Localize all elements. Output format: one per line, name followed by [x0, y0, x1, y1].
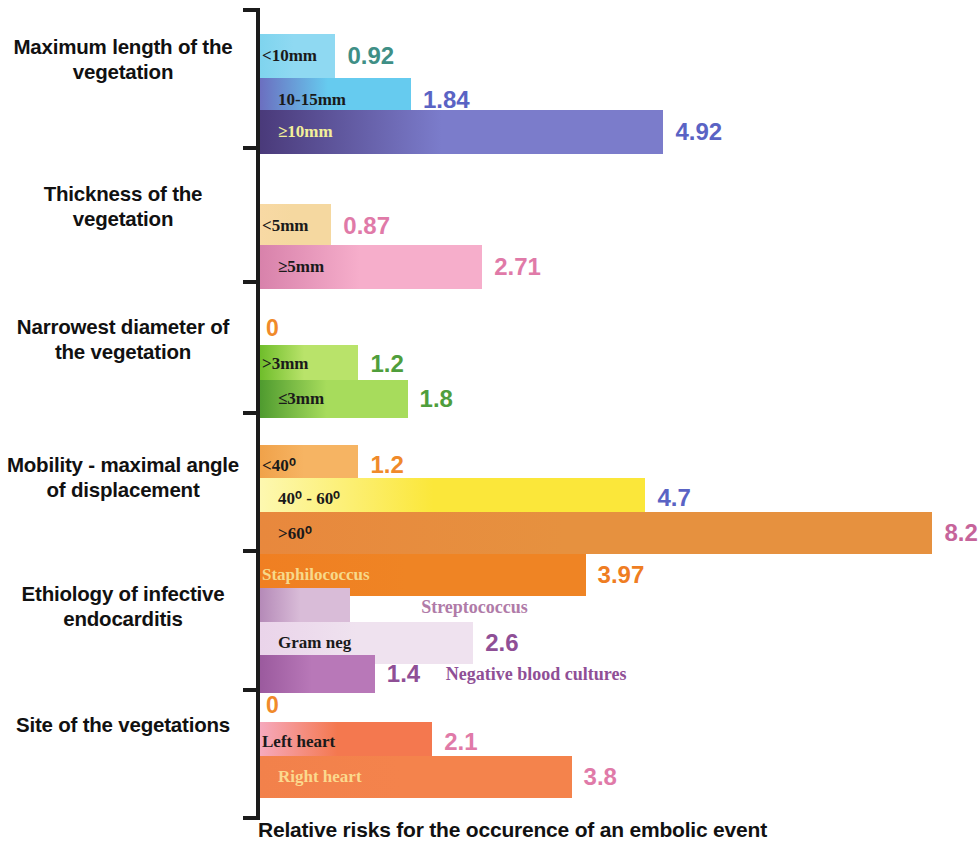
y-axis-tick [243, 146, 258, 150]
bar-value-label: 3.97 [598, 561, 645, 589]
bar-outside-label: Negative blood cultures [446, 664, 627, 685]
category-label: Narrowest diameter of the vegetation [0, 314, 246, 364]
zero-marker: 0 [266, 315, 279, 342]
bar-inner-label: 40⁰ - 60⁰ [278, 488, 340, 509]
bar-inner-label: <40⁰ [262, 455, 296, 476]
bar: <5mm [260, 204, 331, 248]
bar: ≤3mm [260, 380, 408, 418]
y-axis-tick [243, 688, 258, 692]
bar-inner-label: >3mm [262, 354, 309, 374]
y-axis-tick [243, 816, 258, 820]
bar-value-label: 1.8 [420, 385, 453, 413]
bar-value-label: 3.8 [584, 763, 617, 791]
category-label: Site of the vegetations [0, 712, 246, 737]
bar-value-label: 2.6 [485, 629, 518, 657]
bar-value-label: 0.92 [347, 42, 394, 70]
bar-value-label: 0.87 [343, 212, 390, 240]
bar-value-label: 1.2 [370, 350, 403, 378]
category-label: Ethiology of infective endocarditis [0, 581, 246, 631]
bar: Right heart [260, 756, 572, 798]
bar: ≥10mm [260, 110, 663, 154]
bar-inner-label: ≥10mm [278, 122, 333, 142]
y-axis-tick [243, 549, 258, 553]
bar-value-label: 2.71 [494, 253, 541, 281]
bar: <10mm [260, 34, 335, 78]
bar [260, 588, 350, 626]
bar [260, 655, 375, 693]
bar-value-label: 1.2 [370, 451, 403, 479]
bar-inner-label: <10mm [262, 46, 317, 66]
y-axis-tick [243, 411, 258, 415]
bar-value-label: 8.2 [944, 519, 977, 547]
bar-value-label: 1.1 [362, 593, 395, 621]
bar-inner-label: ≥5mm [278, 257, 324, 277]
y-axis-tick [243, 280, 258, 284]
bar-value-label: 1.4 [387, 660, 420, 688]
bar-value-label: 4.92 [675, 118, 722, 146]
bar: ≥5mm [260, 245, 482, 289]
category-label: Mobility - maximal angle of displacement [0, 452, 246, 502]
bar-inner-label: Right heart [278, 767, 362, 787]
bar-inner-label: Left heart [262, 732, 335, 752]
category-label: Maximum length of the vegetation [0, 34, 246, 84]
bar-outside-label: Streptococcus [421, 597, 528, 618]
bar-value-label: 4.7 [657, 484, 690, 512]
y-axis-top-cap [243, 8, 258, 12]
bar-inner-label: ≤3mm [278, 389, 324, 409]
x-axis-caption: Relative risks for the occurence of an e… [258, 818, 767, 842]
bar: >3mm [260, 345, 358, 383]
zero-marker: 0 [266, 692, 279, 719]
bar-inner-label: Staphilococcus [262, 565, 370, 585]
bar: >60⁰ [260, 512, 932, 554]
bar-inner-label: 10-15mm [278, 90, 346, 110]
bar-inner-label: <5mm [262, 216, 309, 236]
bar-inner-label: >60⁰ [278, 523, 312, 544]
bar-value-label: 2.1 [444, 728, 477, 756]
bar-inner-label: Gram neg [278, 633, 351, 653]
category-label: Thickness of the vegetation [0, 181, 246, 231]
